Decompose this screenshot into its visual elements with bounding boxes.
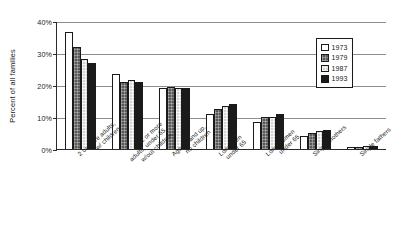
legend-label: 1993 xyxy=(332,75,348,82)
legend-label: 1979 xyxy=(332,54,348,61)
legend-swatch xyxy=(321,65,329,73)
y-axis-tick-label: 10% xyxy=(37,114,52,123)
y-axis-tick xyxy=(53,150,57,151)
bar xyxy=(308,133,316,149)
bar xyxy=(175,88,183,149)
bar xyxy=(81,59,89,149)
x-axis-labels: 2 or more adults,w/ children2 or moreadu… xyxy=(56,152,386,224)
legend-item[interactable]: 1993 xyxy=(321,74,347,85)
bar-chart: Percent of all families 0%10%20%30%40% 2… xyxy=(0,0,407,226)
bar xyxy=(128,80,136,149)
y-axis-tick-label: 20% xyxy=(37,82,52,91)
legend-label: 1973 xyxy=(332,44,348,51)
legend-label: 1987 xyxy=(332,65,348,72)
legend-item[interactable]: 1973 xyxy=(321,42,347,53)
bar xyxy=(300,136,308,149)
bar xyxy=(73,47,81,149)
legend-item[interactable]: 1979 xyxy=(321,53,347,64)
bar xyxy=(253,122,261,149)
bar xyxy=(261,117,269,149)
legend-swatch xyxy=(321,44,329,52)
bar xyxy=(120,82,128,149)
y-axis-title: Percent of all families xyxy=(8,22,20,150)
legend-swatch xyxy=(321,75,329,83)
y-axis-tick-label: 0% xyxy=(41,146,52,155)
y-axis-tick-label: 40% xyxy=(37,18,52,27)
legend-item[interactable]: 1987 xyxy=(321,63,347,74)
y-axis-tick-label: 30% xyxy=(37,50,52,59)
bar xyxy=(214,109,222,149)
bar-group xyxy=(206,22,236,149)
bar xyxy=(347,147,355,149)
legend: 1973197919871993 xyxy=(316,38,353,88)
bar xyxy=(65,32,73,149)
bar-group xyxy=(65,22,95,149)
legend-swatch xyxy=(321,54,329,62)
bar-group xyxy=(253,22,283,149)
